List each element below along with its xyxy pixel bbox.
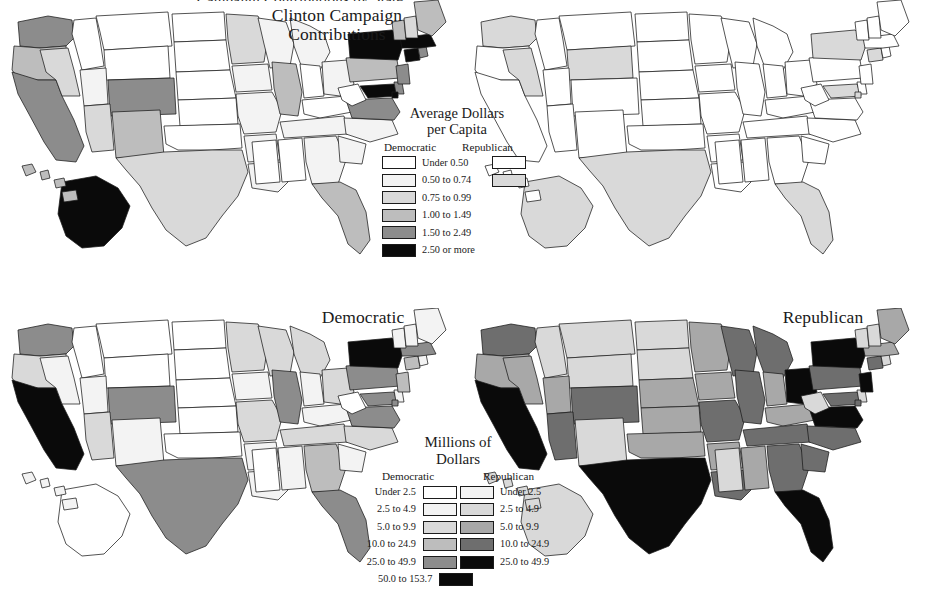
state-hi — [22, 472, 36, 484]
state-sd — [174, 348, 230, 380]
state-hi — [22, 164, 36, 176]
legend-label-republican: 2.5 to 4.9 — [495, 504, 539, 514]
state-tx — [116, 458, 248, 554]
legend-top-header-republican: Republican — [462, 141, 528, 153]
state-wa — [18, 324, 74, 356]
legend-swatch-placeholder — [492, 209, 526, 222]
figure-canvas: Campaign Contributions by State Clinton … — [0, 0, 925, 616]
legend-swatch-democratic — [423, 556, 457, 569]
state-wy — [567, 354, 633, 388]
state-ne — [176, 378, 236, 408]
state-mt — [559, 12, 635, 50]
legend-swatch-republican — [492, 174, 526, 187]
state-nm — [112, 418, 164, 466]
legend-swatch-republican — [460, 503, 494, 516]
legend-label-democratic: 10.0 to 24.9 — [367, 539, 421, 549]
state-co — [571, 386, 639, 424]
state-co — [571, 78, 639, 116]
state-tx — [116, 150, 248, 246]
legend-swatch-placeholder — [492, 244, 526, 257]
state-al — [278, 138, 306, 182]
state-wy — [104, 46, 170, 80]
legend-bottom-row: 25.0 to 49.925.0 to 49.9 — [378, 554, 538, 570]
legend-swatch-placeholder — [476, 573, 510, 586]
state-vt — [855, 328, 869, 348]
state-ok — [164, 432, 242, 458]
legend-label-democratic: 2.5 to 4.9 — [377, 504, 421, 514]
state-wa — [481, 324, 537, 356]
state-co — [108, 386, 176, 424]
state-sc — [338, 444, 366, 472]
legend-swatch-democratic — [439, 573, 473, 586]
legend-swatch-placeholder — [492, 191, 526, 204]
state-hi-island — [54, 486, 66, 496]
state-nd — [635, 12, 689, 42]
us-map-trump — [463, 0, 925, 308]
state-sd — [637, 40, 693, 72]
state-mo — [699, 400, 745, 442]
state-ct — [867, 356, 883, 370]
state-tx — [579, 150, 711, 246]
legend-swatch-republican — [460, 538, 494, 551]
state-nd — [172, 12, 226, 42]
legend-bottom-row: 50.0 to 153.7 — [378, 572, 538, 588]
legend-swatch-democratic — [423, 503, 457, 516]
legend-label-democratic: 50.0 to 153.7 — [378, 574, 437, 584]
state-nh — [404, 324, 418, 346]
legend-swatch-democratic — [382, 156, 416, 169]
state-wy — [567, 46, 633, 80]
state-ut — [80, 376, 108, 414]
legend-swatch-democratic — [423, 521, 457, 534]
state-ks — [178, 406, 238, 434]
state-ks — [641, 98, 701, 126]
state-az — [84, 412, 114, 460]
state-in — [763, 64, 787, 98]
state-wy — [104, 354, 170, 388]
legend-label: Under 0.50 — [422, 158, 486, 168]
state-ak — [58, 176, 130, 248]
state-ms — [252, 448, 280, 492]
legend-millions-of-dollars: Millions of Dollars Democratic Republica… — [378, 434, 538, 589]
legend-swatch-democratic — [423, 486, 457, 499]
state-tx — [579, 458, 711, 554]
state-ct — [404, 356, 420, 370]
state-nj — [859, 64, 873, 84]
legend-bottom-headers: Democratic Republican — [378, 470, 538, 482]
state-sc — [338, 136, 366, 164]
state-co — [108, 78, 176, 116]
state-sc — [801, 136, 829, 164]
legend-bottom-row: 10.0 to 24.910.0 to 24.9 — [378, 537, 538, 553]
state-al — [741, 446, 769, 490]
legend-label: 1.00 to 1.49 — [422, 210, 486, 220]
state-mo — [699, 92, 745, 134]
state-sd — [637, 348, 693, 380]
state-nh — [867, 16, 881, 38]
state-al — [278, 446, 306, 490]
state-hi-island — [40, 478, 50, 488]
state-al — [741, 138, 769, 182]
legend-top-row: 0.50 to 0.74 — [382, 172, 532, 188]
legend-bottom-row: 5.0 to 9.95.0 to 9.9 — [378, 519, 538, 535]
legend-bottom-row: 2.5 to 4.92.5 to 4.9 — [378, 502, 538, 518]
state-in — [300, 64, 324, 98]
state-fl — [312, 490, 370, 562]
legend-swatch-democratic — [423, 538, 457, 551]
legend-bottom-rows: Under 2.5Under 2.52.5 to 4.92.5 to 4.95.… — [378, 484, 538, 588]
state-dc — [392, 92, 398, 98]
state-nj — [396, 372, 410, 392]
state-ok — [627, 432, 705, 458]
state-nm — [575, 418, 627, 466]
state-ak — [58, 484, 130, 556]
state-hi-island — [54, 178, 66, 188]
legend-swatch-democratic — [382, 244, 416, 257]
panel-title-republican: Republican — [728, 308, 918, 327]
state-hi-island — [62, 498, 78, 510]
state-ia — [232, 64, 272, 92]
state-ne — [639, 70, 699, 100]
state-in — [300, 372, 324, 406]
state-wa — [18, 16, 74, 48]
state-dc — [855, 400, 861, 406]
legend-top-title: Average Dollars per Capita — [382, 106, 532, 138]
legend-label: 2.50 or more — [422, 245, 486, 255]
legend-swatch-democratic — [382, 174, 416, 187]
